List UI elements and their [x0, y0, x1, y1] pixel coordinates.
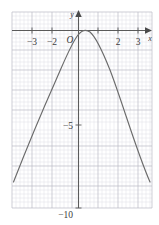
origin-label: O: [67, 35, 74, 45]
y-tick-label-neg10: −10: [58, 210, 73, 220]
y-tick-label-neg5: −5: [63, 121, 73, 131]
x-tick-label-2: 2: [116, 37, 121, 47]
parabola-chart: −3 −2 2 3 −5 −10 O x y: [0, 0, 159, 225]
x-axis-label: x: [147, 34, 152, 43]
x-tick-label-neg2: −2: [47, 37, 57, 47]
graph-figure: −3 −2 2 3 −5 −10 O x y: [0, 0, 159, 225]
x-tick-label-neg3: −3: [27, 37, 37, 47]
y-axis-label: y: [69, 10, 74, 19]
x-tick-label-3: 3: [136, 37, 141, 47]
